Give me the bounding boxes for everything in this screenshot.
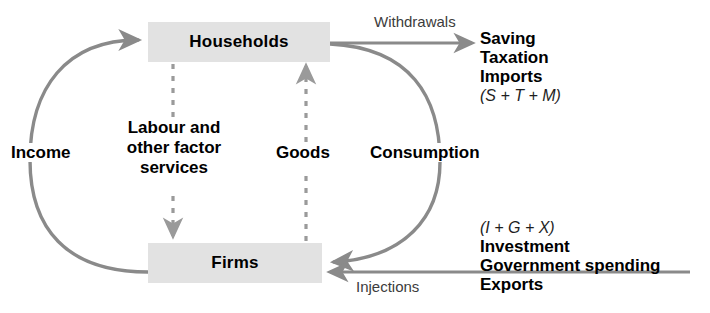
label-income: Income [6, 143, 76, 163]
label-consumption-text: Consumption [365, 143, 485, 162]
label-consumption: Consumption [365, 143, 485, 163]
node-households-label: Households [189, 32, 288, 52]
label-injections: Injections [351, 278, 424, 296]
node-firms[interactable]: Firms [148, 243, 322, 283]
label-labour-factor-services: Labour and other factor services [116, 118, 232, 178]
label-labour-line-2: other factor [116, 138, 232, 158]
withdrawal-item-saving: Saving [480, 29, 561, 48]
withdrawal-item-imports: Imports [480, 67, 561, 86]
label-income-text: Income [6, 143, 76, 162]
label-withdrawals-text: Withdrawals [369, 13, 461, 30]
label-labour-line-1: Labour and [116, 118, 232, 138]
circular-flow-diagram: Households Firms Income Labour and other… [0, 0, 710, 313]
injections-formula: (I + G + X) [480, 219, 660, 237]
injection-item-government-spending: Government spending [480, 256, 660, 275]
label-injections-text: Injections [351, 278, 424, 295]
injection-item-exports: Exports [480, 275, 660, 294]
label-labour-line-3: services [116, 158, 232, 178]
label-goods: Goods [271, 143, 335, 163]
label-withdrawals: Withdrawals [369, 13, 461, 31]
withdrawals-formula: (S + T + M) [480, 87, 561, 105]
withdrawal-item-taxation: Taxation [480, 48, 561, 67]
withdrawals-components-block: Saving Taxation Imports (S + T + M) [480, 29, 561, 105]
node-households[interactable]: Households [148, 22, 330, 62]
injection-item-investment: Investment [480, 237, 660, 256]
injections-components-block: (I + G + X) Investment Government spendi… [480, 219, 660, 295]
label-goods-text: Goods [271, 143, 335, 162]
node-firms-label: Firms [211, 253, 258, 273]
